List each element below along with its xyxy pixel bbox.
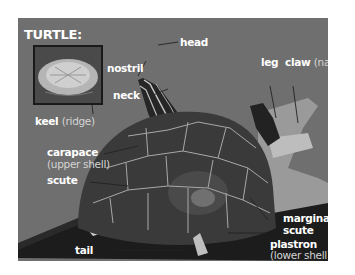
keel-inset-photo xyxy=(33,45,103,105)
carapace-label: carapace xyxy=(47,146,98,158)
claw-label: claw (nail) xyxy=(285,56,328,68)
diagram-title: TURTLE: xyxy=(24,27,82,42)
leg-label: leg xyxy=(261,56,278,68)
nostril-label: nostril xyxy=(107,62,143,74)
marginal-scute-label-line2: scute xyxy=(283,224,314,236)
head-label: head xyxy=(180,36,208,48)
turtle-diagram-photo: TURTLE: keel (ridge) head nostril neck l… xyxy=(18,18,328,261)
neck-label: neck xyxy=(113,89,140,101)
marginal-scute-label-line1: marginal xyxy=(283,212,328,224)
keel-label: keel (ridge) xyxy=(35,115,95,127)
scute-label: scute xyxy=(47,174,78,186)
carapace-sublabel: (upper shell) xyxy=(47,158,110,170)
tail-label: tail xyxy=(75,244,93,256)
plastron-sublabel: (lower shell) xyxy=(270,249,328,261)
